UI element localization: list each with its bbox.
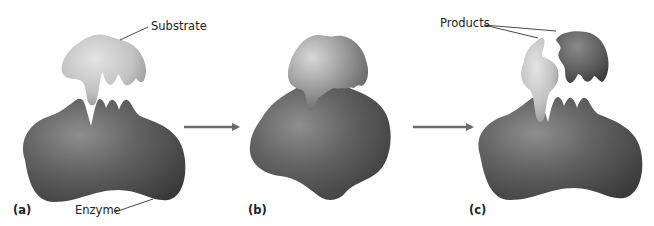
products-label: Products [440,18,490,30]
panel-b [250,35,391,200]
enzyme-induced-fit-diagram: Substrate Enzyme Products (a) (b) (c) [0,0,654,226]
substrate-label: Substrate [151,21,207,33]
panel-label-c: (c) [469,205,486,217]
enzyme-leader-line [115,199,153,212]
panel-a [23,27,185,212]
enzyme-shape-a [23,99,185,202]
substrate-leader-line [120,27,148,40]
product-shape-2 [556,31,609,83]
panel-c [478,25,642,200]
substrate-shape-a [62,34,146,105]
enzyme-shape-b [250,86,391,200]
panel-label-b: (b) [248,205,267,217]
enzyme-shape-c [478,97,642,200]
enzyme-label: Enzyme [75,205,121,217]
diagram-canvas [0,0,654,226]
panel-label-a: (a) [13,205,31,217]
